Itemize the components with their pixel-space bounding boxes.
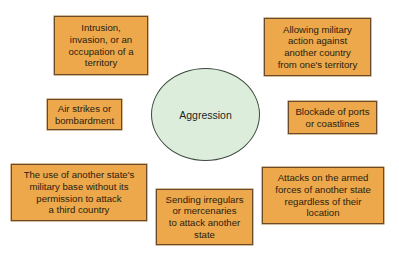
node-attacks-on-armed-forces: Attacks on the armed forces of another s…: [262, 167, 384, 224]
node-sending-irregulars: Sending irregulars or mercenaries to att…: [156, 189, 253, 245]
node-air-strikes: Air strikes or bombardment: [47, 99, 122, 130]
node-label: The use of another state's military base…: [24, 169, 135, 215]
node-label: Intrusion, invasion, or an occupation of…: [68, 22, 133, 68]
center-node-aggression: Aggression: [151, 68, 260, 161]
aggression-diagram: Intrusion, invasion, or an occupation of…: [0, 0, 399, 255]
node-label: Air strikes or bombardment: [55, 103, 114, 126]
node-use-of-military-base: The use of another state's military base…: [11, 164, 147, 221]
node-label: Attacks on the armed forces of another s…: [275, 172, 370, 218]
node-blockade: Blockade of ports or coastlines: [288, 101, 377, 134]
center-label: Aggression: [179, 109, 232, 121]
node-label: Blockade of ports or coastlines: [295, 106, 369, 129]
node-intrusion-invasion-occupation: Intrusion, invasion, or an occupation of…: [54, 16, 148, 75]
node-label: Sending irregulars or mercenaries to att…: [166, 194, 244, 240]
node-allowing-military-action: Allowing military action against another…: [264, 18, 371, 76]
node-label: Allowing military action against another…: [278, 24, 358, 70]
